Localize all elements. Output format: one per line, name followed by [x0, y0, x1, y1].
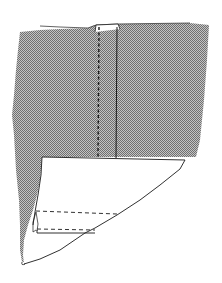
sewing-diagram [0, 0, 222, 283]
folded-hem [23, 157, 185, 264]
diagram-svg [0, 0, 222, 283]
